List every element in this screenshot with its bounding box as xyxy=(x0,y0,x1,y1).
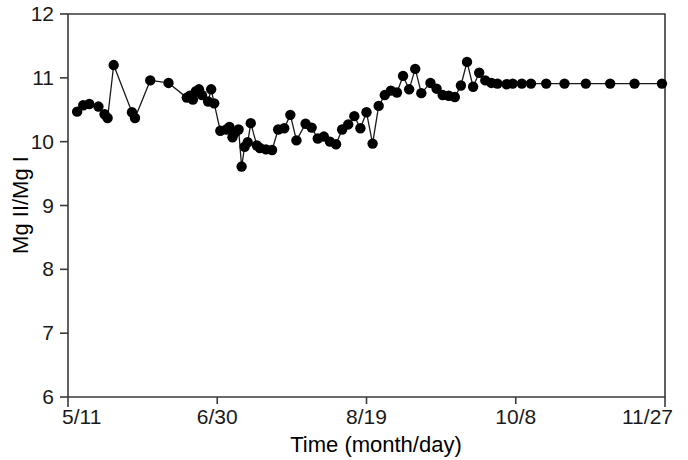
y-axis-title: Mg II/Mg I xyxy=(8,156,33,254)
data-point xyxy=(367,138,377,148)
series-markers xyxy=(72,57,667,172)
data-point xyxy=(163,78,173,88)
data-point xyxy=(236,161,246,171)
x-axis: 5/116/308/1910/811/27 xyxy=(62,397,673,428)
x-tick-label: 5/11 xyxy=(62,405,101,428)
data-point xyxy=(605,78,615,88)
data-point xyxy=(456,80,466,90)
y-tick-label: 11 xyxy=(32,66,54,89)
x-axis-title: Time (month/day) xyxy=(290,432,462,457)
data-point xyxy=(343,119,353,129)
data-point xyxy=(450,92,460,102)
data-point xyxy=(279,123,289,133)
data-point xyxy=(492,78,502,88)
data-point xyxy=(306,122,316,132)
data-point xyxy=(526,78,536,88)
data-point xyxy=(108,60,118,70)
y-tick-label: 8 xyxy=(42,257,54,280)
data-point xyxy=(145,75,155,85)
data-point xyxy=(206,84,216,94)
data-point xyxy=(291,135,301,145)
data-point xyxy=(392,87,402,97)
y-tick-label: 7 xyxy=(42,321,54,344)
data-point xyxy=(541,78,551,88)
data-point xyxy=(559,78,569,88)
data-point xyxy=(373,101,383,111)
plot-frame xyxy=(68,14,665,397)
x-tick-label: 11/27 xyxy=(622,405,673,428)
data-point xyxy=(267,145,277,155)
y-tick-label: 9 xyxy=(42,194,54,217)
data-point xyxy=(629,78,639,88)
data-point xyxy=(361,107,371,117)
data-point xyxy=(581,78,591,88)
chart-figure: 6789101112 5/116/308/1910/811/27 Mg II/M… xyxy=(0,0,688,460)
y-axis: 6789101112 xyxy=(31,2,68,408)
data-point xyxy=(84,99,94,109)
data-point xyxy=(355,123,365,133)
data-series-mg-ratio xyxy=(72,57,667,172)
data-point xyxy=(233,124,243,134)
data-point xyxy=(102,113,112,123)
data-point xyxy=(517,78,527,88)
data-point xyxy=(657,78,667,88)
data-point xyxy=(410,64,420,74)
data-point xyxy=(130,113,140,123)
x-tick-label: 8/19 xyxy=(346,405,387,428)
y-tick-label: 12 xyxy=(31,2,54,25)
y-tick-label: 6 xyxy=(42,385,54,408)
data-point xyxy=(246,118,256,128)
x-tick-label: 6/30 xyxy=(197,405,238,428)
data-point xyxy=(462,57,472,67)
data-point xyxy=(416,88,426,98)
data-point xyxy=(404,84,414,94)
data-point xyxy=(508,78,518,88)
data-point xyxy=(398,71,408,81)
data-point xyxy=(331,139,341,149)
x-tick-label: 10/8 xyxy=(495,405,536,428)
data-point xyxy=(285,110,295,120)
data-point xyxy=(468,82,478,92)
data-point xyxy=(243,137,253,147)
chart-canvas: 6789101112 5/116/308/1910/811/27 Mg II/M… xyxy=(0,0,688,460)
data-point xyxy=(209,98,219,108)
y-tick-label: 10 xyxy=(31,130,54,153)
data-point xyxy=(349,111,359,121)
